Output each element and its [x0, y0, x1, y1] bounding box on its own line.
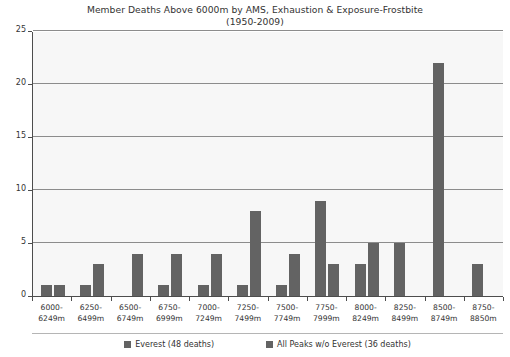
bar — [132, 254, 143, 296]
bar — [250, 211, 261, 296]
bar-group — [426, 32, 465, 296]
x-axis-category-label: 6500-6749m — [111, 303, 150, 324]
legend-item[interactable]: Everest (48 deaths) — [124, 340, 214, 349]
x-tick-mark — [307, 297, 308, 301]
x-axis-label-line: 8500- — [425, 303, 464, 314]
y-tick-label: 15 — [16, 131, 26, 140]
bar — [355, 264, 366, 296]
x-axis-label-line: 6499m — [71, 314, 110, 325]
x-axis-category-label: 8000-8249m — [346, 303, 385, 324]
x-axis-label-line: 8000- — [346, 303, 385, 314]
bar — [211, 254, 222, 296]
x-tick-mark — [464, 297, 465, 301]
bar — [394, 243, 405, 296]
bar-group — [151, 32, 190, 296]
x-axis-category-label: 7250-7499m — [228, 303, 267, 324]
chart-title-block: Member Deaths Above 6000m by AMS, Exhaus… — [0, 4, 510, 28]
x-tick-mark — [268, 297, 269, 301]
bar — [472, 264, 483, 296]
legend-swatch-icon — [124, 341, 131, 348]
x-axis-category-label: 6750-6999m — [150, 303, 189, 324]
bar-group — [112, 32, 151, 296]
x-tick-mark — [150, 297, 151, 301]
y-tick-label: 10 — [16, 184, 26, 193]
bar — [237, 285, 248, 296]
x-axis-category-label: 7000-7249m — [189, 303, 228, 324]
x-axis-category-label: 7750-7999m — [307, 303, 346, 324]
x-axis-label-line: 7750- — [307, 303, 346, 314]
x-axis: 6000-6249m6250-6499m6500-6749m6750-6999m… — [32, 297, 503, 333]
bar — [433, 63, 444, 296]
bar-group — [72, 32, 111, 296]
x-tick-mark — [503, 297, 504, 301]
bar — [158, 285, 169, 296]
x-tick-mark — [71, 297, 72, 301]
y-axis-tick: 5 — [0, 243, 32, 244]
x-axis-category-label: 6250-6499m — [71, 303, 110, 324]
x-axis-label-line: 7500- — [268, 303, 307, 314]
x-axis-category-label: 8500-8749m — [425, 303, 464, 324]
bar-group — [229, 32, 268, 296]
x-axis-label-line: 8249m — [346, 314, 385, 325]
x-axis-label-line: 7749m — [268, 314, 307, 325]
bar-group — [269, 32, 308, 296]
bar-group — [386, 32, 425, 296]
x-axis-category-label: 8750-8850m — [464, 303, 503, 324]
bar-group — [347, 32, 386, 296]
bar — [171, 254, 182, 296]
y-axis-tick: 25 — [0, 31, 32, 32]
x-axis-label-line: 6249m — [32, 314, 71, 325]
y-axis: 0510152025 — [0, 32, 32, 297]
chart-title: Member Deaths Above 6000m by AMS, Exhaus… — [0, 4, 510, 16]
bar — [54, 285, 65, 296]
x-tick-mark — [425, 297, 426, 301]
bars-layer — [33, 32, 503, 296]
x-axis-label-line: 7000- — [189, 303, 228, 314]
x-axis-label-line: 6500- — [111, 303, 150, 314]
y-tick-label: 0 — [21, 290, 26, 299]
x-axis-label-line: 7499m — [228, 314, 267, 325]
chart-container: Member Deaths Above 6000m by AMS, Exhaus… — [0, 0, 510, 357]
y-tick-label: 5 — [21, 237, 26, 246]
bar-group — [308, 32, 347, 296]
legend-label: All Peaks w/o Everest (36 deaths) — [277, 340, 411, 349]
x-axis-label-line: 8850m — [464, 314, 503, 325]
y-tick-label: 25 — [16, 25, 26, 34]
x-tick-mark — [228, 297, 229, 301]
x-axis-label-line: 8750- — [464, 303, 503, 314]
x-tick-mark — [346, 297, 347, 301]
x-axis-category-label: 7500-7749m — [268, 303, 307, 324]
x-tick-mark — [32, 297, 33, 301]
bar-group — [190, 32, 229, 296]
legend-label: Everest (48 deaths) — [135, 340, 214, 349]
x-axis-label-line: 8749m — [425, 314, 464, 325]
bar — [368, 243, 379, 296]
bar — [198, 285, 209, 296]
y-axis-tick: 20 — [0, 84, 32, 85]
x-tick-mark — [189, 297, 190, 301]
bar — [41, 285, 52, 296]
x-axis-category-label: 8250-8499m — [385, 303, 424, 324]
x-axis-label-line: 6999m — [150, 314, 189, 325]
x-tick-mark — [111, 297, 112, 301]
x-axis-label-line: 6749m — [111, 314, 150, 325]
legend-item[interactable]: All Peaks w/o Everest (36 deaths) — [266, 340, 411, 349]
y-tick-label: 20 — [16, 78, 26, 87]
bar — [315, 201, 326, 296]
bar — [276, 285, 287, 296]
x-axis-label-line: 7249m — [189, 314, 228, 325]
bar — [289, 254, 300, 296]
y-axis-tick: 15 — [0, 137, 32, 138]
chart-legend: Everest (48 deaths)All Peaks w/o Everest… — [32, 333, 503, 351]
x-axis-category-label: 6000-6249m — [32, 303, 71, 324]
bar — [328, 264, 339, 296]
x-axis-label-line: 6750- — [150, 303, 189, 314]
x-axis-label-line: 7999m — [307, 314, 346, 325]
x-axis-label-line: 6250- — [71, 303, 110, 314]
chart-subtitle: (1950-2009) — [0, 16, 510, 28]
gridline — [33, 30, 503, 31]
x-axis-label-line: 8499m — [385, 314, 424, 325]
bar — [93, 264, 104, 296]
bar-group — [465, 32, 504, 296]
x-axis-label-line: 7250- — [228, 303, 267, 314]
